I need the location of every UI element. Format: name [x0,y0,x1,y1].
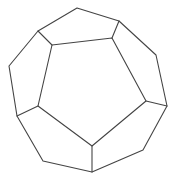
edge-spokes [17,21,167,172]
edge-line [17,106,38,116]
outer-silhouette [9,8,167,172]
edge-line [112,21,119,38]
edge-line [38,31,52,45]
front-pentagon-face [38,38,146,146]
dodecahedron-diagram [0,0,177,182]
edge-line [146,101,167,106]
